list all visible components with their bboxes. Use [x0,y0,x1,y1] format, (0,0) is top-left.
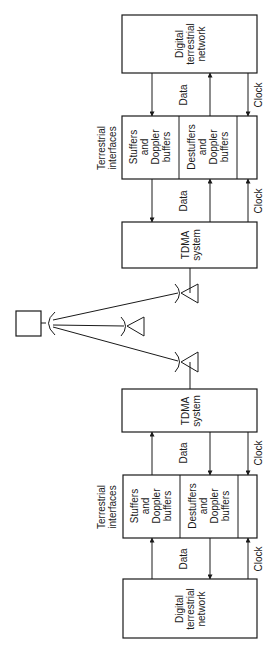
bottom-link-tdma-interfaces: Data Clock [152,432,264,475]
bottom-clock-label-1: Clock [253,440,264,466]
bottom-clock-label-2: Clock [253,546,264,572]
svg-text:and: and [197,139,208,156]
svg-text:TDMA: TDMA [180,397,191,426]
svg-text:Doppler: Doppler [151,488,162,524]
svg-text:TDMA: TDMA [180,231,191,260]
svg-text:Destuffers: Destuffers [186,124,197,169]
bottom-data-label-1: Data [178,442,189,464]
top-stuffers-block: Stuffers and Doppler buffers [128,129,172,165]
tdma-satellite-link-diagram: Digital terrestrial network Data Clock T… [0,0,272,651]
bottom-link-interfaces-network: Data Clock [152,538,264,579]
svg-text:Terrestrial: Terrestrial [96,126,107,170]
svg-text:network: network [196,590,207,626]
top-network-line3: network [196,25,207,61]
svg-text:Destuffers: Destuffers [187,483,198,528]
satellite-icon [16,311,55,336]
top-interfaces-label: Terrestrial interfaces [96,126,118,170]
bottom-digital-terrestrial-network: Digital terrestrial network [123,579,257,638]
bottom-stuffers-block: Stuffers and Doppler buffers [129,488,173,524]
top-data-label-1: Data [178,84,189,106]
svg-text:Digital: Digital [174,595,185,623]
svg-text:system: system [191,395,202,427]
satellite-beams [53,293,178,361]
bottom-ground-antenna-icon [175,352,198,389]
svg-text:and: and [198,498,209,515]
svg-text:Terrestrial: Terrestrial [96,485,107,529]
top-network-line2: terrestrial [185,23,196,65]
top-link-network-interfaces: Data Clock [152,73,264,116]
svg-text:buffers: buffers [162,491,173,521]
bottom-tdma-system: TDMA system [122,389,257,432]
top-network-line1: Digital [174,30,185,58]
middle-ground-antenna-icon [121,317,144,336]
svg-text:system: system [191,229,202,261]
top-clock-label-2: Clock [253,188,264,214]
svg-text:interfaces: interfaces [107,126,118,169]
svg-text:Stuffers: Stuffers [128,130,139,164]
svg-text:interfaces: interfaces [107,485,118,528]
top-link-interfaces-tdma: Data Clock [152,179,264,222]
svg-text:Doppler: Doppler [208,129,219,165]
top-data-label-2: Data [178,190,189,212]
svg-text:buffers: buffers [161,132,172,162]
top-ground-antenna-icon [175,268,198,303]
top-tdma-system: TDMA system [122,222,257,268]
top-digital-terrestrial-network: Digital terrestrial network [122,15,257,73]
svg-text:and: and [139,139,150,156]
svg-text:and: and [140,498,151,515]
svg-text:Doppler: Doppler [150,129,161,165]
svg-text:Stuffers: Stuffers [129,489,140,523]
svg-text:Doppler: Doppler [209,488,220,524]
bottom-data-label-2: Data [178,548,189,570]
svg-text:terrestrial: terrestrial [185,588,196,630]
top-terrestrial-interfaces: Stuffers and Doppler buffers Destuffers … [122,116,257,179]
svg-text:buffers: buffers [220,491,231,521]
top-clock-label-1: Clock [253,82,264,108]
bottom-interfaces-label: Terrestrial interfaces [96,485,118,529]
bottom-terrestrial-interfaces: Stuffers and Doppler buffers Destuffers … [123,475,257,538]
svg-text:buffers: buffers [219,132,230,162]
